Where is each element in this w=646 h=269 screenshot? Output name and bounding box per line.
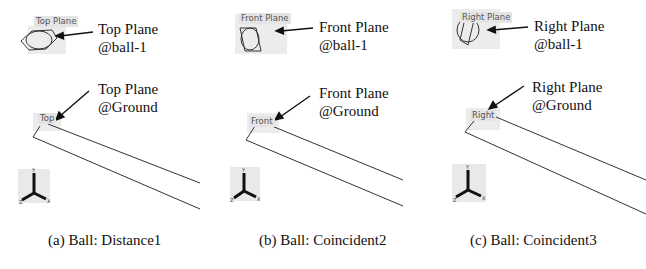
- ground-plane-outline: [465, 117, 646, 214]
- coordinate-triad-icon: Y Z X: [230, 167, 261, 203]
- ground-plane-tag: Top: [38, 113, 56, 124]
- panel-b: Y Z X Front Plane Front Plane @ball-1 Fr…: [215, 0, 430, 269]
- panel-caption: (c) Ball: Coincident3: [470, 232, 597, 249]
- arrow-icon: [488, 27, 528, 34]
- arrow-icon: [489, 86, 524, 109]
- arrow-icon: [56, 91, 89, 120]
- svg-text:Z: Z: [453, 197, 457, 203]
- svg-text:X: X: [482, 195, 486, 201]
- ground-plane-callout: Front Plane @Ground: [319, 84, 389, 120]
- ball-plane-callout: Top Plane @ball-1: [98, 20, 158, 56]
- ground-plane-outline: [246, 124, 403, 206]
- coordinate-triad-icon: Y Z X: [452, 164, 486, 203]
- panel-c: Y Z X Right Plane Right Plane @ball-1 Ri…: [430, 0, 646, 269]
- ball-plane-tag: Front Plane: [239, 13, 291, 24]
- arrow-icon: [276, 28, 313, 35]
- svg-text:Z: Z: [19, 199, 23, 205]
- svg-text:Z: Z: [230, 197, 234, 203]
- panel-caption: (a) Ball: Distance1: [48, 232, 161, 249]
- ball-plane-tag: Top Plane: [34, 16, 78, 27]
- ball-plane-callout: Front Plane @ball-1: [319, 18, 389, 54]
- svg-text:X: X: [47, 198, 51, 204]
- ground-plane-outline: [33, 124, 200, 209]
- arrow-icon: [56, 32, 93, 39]
- ball-plane-tag: Right Plane: [460, 12, 512, 23]
- ground-plane-tag: Right: [470, 110, 496, 121]
- coordinate-triad-icon: Y Z X: [18, 167, 51, 205]
- ball-plane-callout: Right Plane @ball-1: [534, 17, 604, 53]
- ground-plane-callout: Top Plane @Ground: [98, 80, 158, 116]
- ground-plane-callout: Right Plane @Ground: [532, 78, 602, 114]
- ground-plane-tag: Front: [249, 116, 275, 127]
- svg-text:X: X: [257, 196, 261, 202]
- panel-caption: (b) Ball: Coincident2: [259, 232, 386, 249]
- arrow-icon: [275, 96, 310, 120]
- panel-a: Y Z X Top Plane Top Plane @ball-1 Top To…: [0, 0, 215, 269]
